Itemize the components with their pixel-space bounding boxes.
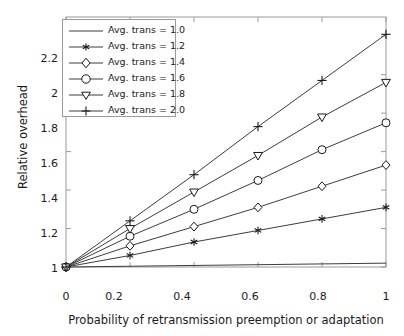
legend-entry: Avg. trans = 1.8 bbox=[63, 87, 177, 103]
data-point-marker-plus bbox=[189, 170, 198, 179]
data-point-marker-diamond bbox=[318, 182, 326, 191]
legend-marker-none-icon bbox=[67, 23, 105, 39]
data-point-marker-triangle bbox=[318, 114, 327, 122]
data-point-marker-diamond bbox=[126, 241, 134, 250]
x-axis-title: Probability of retransmission preemption… bbox=[66, 313, 386, 327]
x-tick-label: 0.4 bbox=[162, 290, 202, 303]
data-point-marker-diamond bbox=[254, 203, 262, 212]
data-point-marker-circle bbox=[190, 205, 198, 213]
data-point-marker-triangle bbox=[254, 152, 263, 160]
x-tick-label: 0.8 bbox=[298, 290, 338, 303]
x-tick-label: 0.2 bbox=[94, 290, 134, 303]
data-point-marker-triangle bbox=[382, 79, 391, 87]
data-point-marker-circle bbox=[382, 119, 390, 127]
x-tick-label: 1 bbox=[366, 290, 404, 303]
y-axis-title: Relative overhead bbox=[16, 62, 30, 212]
y-tick-label: 1.2 bbox=[22, 227, 58, 240]
legend-entry: Avg. trans = 1.0 bbox=[63, 23, 177, 39]
legend-marker-circle-icon bbox=[67, 71, 105, 87]
data-point-marker-plus bbox=[381, 30, 390, 39]
chart-plot-area bbox=[0, 0, 404, 336]
x-tick-label: 0 bbox=[46, 290, 86, 303]
legend-marker-triangle-down-icon bbox=[67, 87, 105, 103]
data-point-marker-diamond bbox=[190, 222, 198, 231]
series-line bbox=[66, 207, 386, 267]
legend-marker-asterisk-icon bbox=[67, 39, 105, 55]
series-line bbox=[66, 123, 386, 267]
legend-entry: Avg. trans = 2.0 bbox=[63, 103, 177, 119]
legend-label: Avg. trans = 2.0 bbox=[108, 104, 185, 115]
legend-entry: Avg. trans = 1.6 bbox=[63, 71, 177, 87]
x-tick-label: 0.6 bbox=[230, 290, 270, 303]
legend-marker-diamond-icon bbox=[67, 55, 105, 71]
legend-label: Avg. trans = 1.4 bbox=[108, 56, 185, 67]
series-line bbox=[66, 263, 386, 267]
legend-entry: Avg. trans = 1.4 bbox=[63, 55, 177, 71]
data-point-marker-circle bbox=[254, 176, 262, 184]
chart-legend: Avg. trans = 1.0 Avg. trans = 1.2 Avg. t… bbox=[62, 19, 176, 117]
data-point-marker-plus bbox=[125, 216, 134, 225]
legend-label: Avg. trans = 1.6 bbox=[108, 72, 185, 83]
data-point-marker-plus bbox=[253, 122, 262, 131]
y-tick-label: 1 bbox=[22, 262, 58, 275]
data-point-marker-diamond bbox=[382, 161, 390, 170]
legend-label: Avg. trans = 1.2 bbox=[108, 40, 185, 51]
data-point-marker-circle bbox=[318, 146, 326, 154]
legend-entry: Avg. trans = 1.2 bbox=[63, 39, 177, 55]
data-point-marker-plus bbox=[317, 76, 326, 85]
legend-label: Avg. trans = 1.0 bbox=[108, 24, 185, 35]
legend-marker-plus-icon bbox=[67, 103, 105, 119]
data-point-marker-triangle bbox=[190, 189, 199, 197]
figure-container: 1 1.2 1.4 1.6 1.8 2 2.2 0 0.2 0.4 0.6 0.… bbox=[0, 0, 404, 336]
data-point-marker-triangle bbox=[126, 226, 135, 234]
legend-label: Avg. trans = 1.8 bbox=[108, 88, 185, 99]
